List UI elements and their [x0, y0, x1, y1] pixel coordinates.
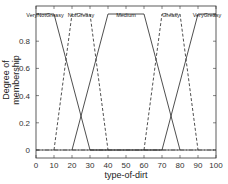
x-tick-label: 60	[140, 161, 149, 170]
series-medium	[72, 14, 180, 150]
label-medium: Medium	[116, 12, 136, 18]
x-tick-label: 0	[34, 161, 39, 170]
series-notgreasy	[54, 14, 108, 150]
series-verynotgreasy	[36, 14, 216, 150]
x-tick-label: 100	[209, 161, 223, 170]
label-verynotgreasy: VeryNotGreasy	[26, 12, 64, 18]
x-tick-label: 20	[68, 161, 77, 170]
x-tick-label: 80	[176, 161, 185, 170]
y-axis-label: Degree of membership	[1, 35, 21, 125]
axes-frame	[36, 6, 216, 158]
series-greasy	[144, 14, 198, 150]
series-verygreasy	[36, 14, 216, 150]
x-tick-label: 50	[122, 161, 131, 170]
x-tick-label: 40	[104, 161, 113, 170]
x-tick-label: 90	[194, 161, 203, 170]
x-axis-label: type-of-dirt	[96, 170, 156, 180]
label-notgreasy: NotGreasy	[68, 12, 95, 18]
plot-area: 010203040506070809010000.20.40.60.8VeryN…	[19, 6, 223, 170]
label-verygreasy: VeryGreasy	[193, 12, 222, 18]
x-tick-label: 10	[50, 161, 59, 170]
membership-chart: 010203040506070809010000.20.40.60.8VeryN…	[0, 0, 228, 184]
x-tick-label: 30	[86, 161, 95, 170]
y-tick-label: 0	[26, 146, 31, 155]
label-greasy: Greasy	[162, 12, 180, 18]
x-tick-label: 70	[158, 161, 167, 170]
